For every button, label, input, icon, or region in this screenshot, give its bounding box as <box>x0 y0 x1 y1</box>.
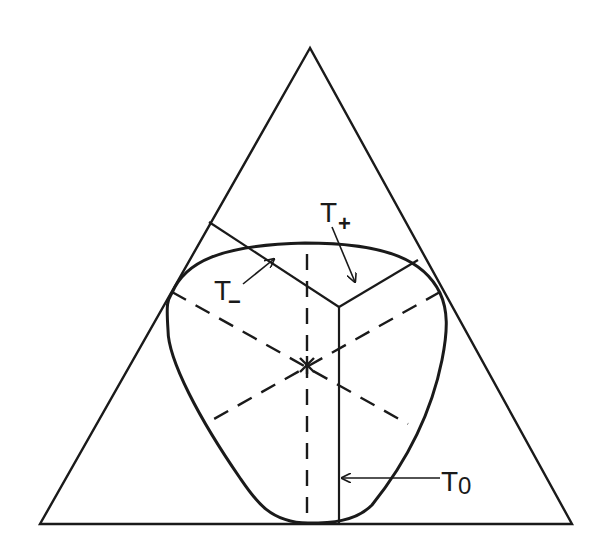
dashed-axes <box>172 254 440 523</box>
phase-diagram: T+ T− T0 <box>0 0 601 555</box>
arrow-t-minus <box>243 259 274 284</box>
label-t-plus: T+ <box>320 197 351 236</box>
junction-line-right <box>339 260 418 307</box>
label-t-minus: T− <box>214 275 241 314</box>
dashed-axis-left-diagonal <box>172 292 408 424</box>
label-t-zero: T0 <box>441 466 471 499</box>
